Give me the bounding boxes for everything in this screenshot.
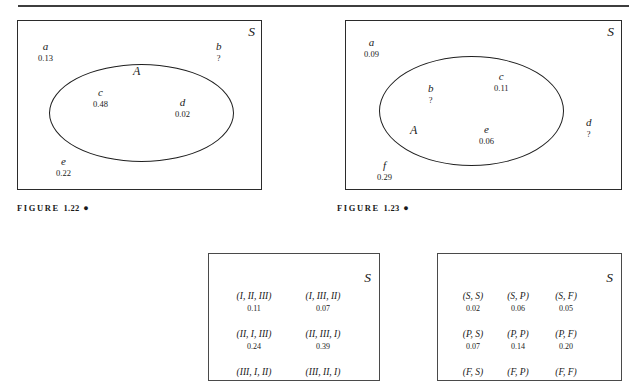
outcome-e-letter: e bbox=[56, 156, 71, 168]
outcome-c: c 0.48 bbox=[93, 87, 108, 108]
outcome-c: c 0.11 bbox=[494, 71, 509, 92]
outcome-tuple: (P, F) bbox=[541, 330, 591, 340]
caption-prefix: FIGURE bbox=[337, 203, 380, 213]
sample-space-box-figure-1-23: S A a 0.09 b ? c 0.11 d ? e 0.06 f 0.29 bbox=[345, 20, 622, 190]
outcome-cell: (I, III, II) 0.07 bbox=[292, 292, 354, 313]
outcome-tuple: (F, F) bbox=[541, 368, 591, 378]
outcome-b-value: ? bbox=[216, 54, 222, 63]
outcome-a-value: 0.09 bbox=[364, 50, 379, 59]
horizontal-rule bbox=[18, 5, 629, 7]
outcome-probability: 0.39 bbox=[292, 343, 354, 351]
outcome-cell: (P, S) 0.07 bbox=[448, 330, 498, 351]
caption-marker: ● bbox=[403, 203, 408, 213]
caption-figure-1-23: FIGURE 1.23 ● bbox=[337, 203, 409, 213]
outcome-e: e 0.22 bbox=[56, 156, 71, 177]
outcome-tuple: (II, I, III) bbox=[223, 330, 285, 340]
outcome-b: b ? bbox=[216, 41, 222, 62]
set-label-A: A bbox=[410, 123, 417, 138]
outcome-e-letter: e bbox=[479, 124, 494, 136]
outcome-cell: (III, II, I) bbox=[292, 368, 354, 381]
set-label-A: A bbox=[133, 64, 140, 79]
sample-space-label: S bbox=[607, 24, 614, 40]
outcome-tuple: (III, I, II) bbox=[223, 368, 285, 378]
caption-figure-1-22: FIGURE 1.22 ● bbox=[17, 203, 89, 213]
outcome-cell: (P, P) 0.14 bbox=[493, 330, 543, 351]
sample-space-label: S bbox=[248, 24, 255, 40]
outcome-f: f 0.29 bbox=[377, 160, 392, 181]
set-ellipse-A bbox=[49, 64, 234, 162]
outcome-probability: 0.24 bbox=[223, 343, 285, 351]
outcome-cell: (P, F) 0.20 bbox=[541, 330, 591, 351]
outcome-cell: (S, S) 0.02 bbox=[448, 292, 498, 313]
sample-space-box-permutations: S (I, II, III) 0.11 (I, III, II) 0.07 (I… bbox=[208, 253, 380, 381]
outcome-a: a 0.13 bbox=[38, 41, 53, 62]
outcome-tuple: (III, II, I) bbox=[292, 368, 354, 378]
caption-prefix: FIGURE bbox=[17, 203, 60, 213]
outcome-b-letter: b bbox=[428, 83, 434, 95]
sample-space-box-figure-1-22: S A a 0.13 b ? c 0.48 d 0.02 e 0.22 bbox=[17, 20, 262, 190]
outcome-f-value: 0.29 bbox=[377, 173, 392, 182]
sample-space-box-pairs: S (S, S) 0.02 (S, P) 0.06 (S, F) 0.05 (P… bbox=[437, 253, 622, 381]
outcome-a: a 0.09 bbox=[364, 37, 379, 58]
set-ellipse-A bbox=[379, 56, 564, 166]
outcome-probability: 0.20 bbox=[541, 343, 591, 351]
outcome-d-value: 0.02 bbox=[175, 110, 190, 119]
outcome-cell: (III, I, II) bbox=[223, 368, 285, 381]
outcome-d: d ? bbox=[586, 117, 592, 138]
outcome-tuple: (II, III, I) bbox=[292, 330, 354, 340]
outcome-cell: (II, I, III) 0.24 bbox=[223, 330, 285, 351]
outcome-cell: (II, III, I) 0.39 bbox=[292, 330, 354, 351]
outcome-f-letter: f bbox=[377, 160, 392, 172]
outcome-c-letter: c bbox=[93, 87, 108, 99]
outcome-e: e 0.06 bbox=[479, 124, 494, 145]
outcome-tuple: (S, F) bbox=[541, 292, 591, 302]
outcome-d-letter: d bbox=[175, 97, 190, 109]
outcome-tuple: (I, II, III) bbox=[223, 292, 285, 302]
outcome-probability: 0.14 bbox=[493, 343, 543, 351]
outcome-probability: 0.06 bbox=[493, 305, 543, 313]
outcome-c-value: 0.11 bbox=[494, 84, 509, 93]
outcome-tuple: (F, P) bbox=[493, 368, 543, 378]
sample-space-label: S bbox=[364, 270, 371, 286]
outcome-tuple: (F, S) bbox=[448, 368, 498, 378]
outcome-probability: 0.02 bbox=[448, 305, 498, 313]
outcome-tuple: (P, S) bbox=[448, 330, 498, 340]
outcome-c-value: 0.48 bbox=[93, 100, 108, 109]
sample-space-label: S bbox=[606, 270, 613, 286]
outcome-probability: 0.07 bbox=[448, 343, 498, 351]
outcome-b: b ? bbox=[428, 83, 434, 104]
caption-marker: ● bbox=[83, 203, 88, 213]
outcome-cell: (S, P) 0.06 bbox=[493, 292, 543, 313]
outcome-cell: (I, II, III) 0.11 bbox=[223, 292, 285, 313]
outcome-cell: (S, F) 0.05 bbox=[541, 292, 591, 313]
outcome-a-letter: a bbox=[364, 37, 379, 49]
caption-number: 1.23 bbox=[383, 203, 399, 213]
outcome-tuple: (S, P) bbox=[493, 292, 543, 302]
caption-number: 1.22 bbox=[63, 203, 79, 213]
outcome-e-value: 0.22 bbox=[56, 169, 71, 178]
outcome-b-value: ? bbox=[428, 96, 434, 105]
outcome-probability: 0.07 bbox=[292, 305, 354, 313]
outcome-b-letter: b bbox=[216, 41, 222, 53]
outcome-d-letter: d bbox=[586, 117, 592, 129]
outcome-a-letter: a bbox=[38, 41, 53, 53]
outcome-d: d 0.02 bbox=[175, 97, 190, 118]
outcome-cell: (F, P) bbox=[493, 368, 543, 381]
outcome-c-letter: c bbox=[494, 71, 509, 83]
outcome-tuple: (I, III, II) bbox=[292, 292, 354, 302]
outcome-tuple: (S, S) bbox=[448, 292, 498, 302]
outcome-probability: 0.05 bbox=[541, 305, 591, 313]
outcome-probability: 0.11 bbox=[223, 305, 285, 313]
outcome-d-value: ? bbox=[586, 130, 592, 139]
outcome-a-value: 0.13 bbox=[38, 54, 53, 63]
outcome-cell: (F, F) bbox=[541, 368, 591, 381]
outcome-cell: (F, S) bbox=[448, 368, 498, 381]
outcome-e-value: 0.06 bbox=[479, 137, 494, 146]
outcome-tuple: (P, P) bbox=[493, 330, 543, 340]
